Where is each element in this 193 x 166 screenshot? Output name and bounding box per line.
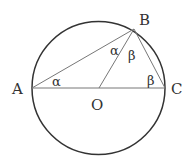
point-label-O: O [91, 96, 103, 114]
point-label-C: C [171, 80, 182, 98]
angle-label-A-alpha: α [52, 74, 61, 89]
segment-AB [32, 29, 134, 88]
angle-label-B-alpha: α [110, 43, 119, 58]
circle-diagram: A B C O α α β β [0, 0, 193, 166]
point-label-A: A [11, 80, 23, 98]
angle-label-B-beta: β [128, 48, 136, 63]
angle-label-C-beta: β [147, 73, 155, 88]
point-label-B: B [139, 11, 150, 29]
